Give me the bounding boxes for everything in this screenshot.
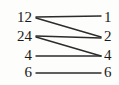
right-node-0: 1: [104, 10, 112, 25]
edge-12-to-1: [36, 16, 101, 17]
left-node-0: 12: [17, 10, 32, 25]
right-node-3: 6: [104, 65, 112, 80]
edges-group: [36, 16, 101, 73]
left-node-1: 24: [17, 29, 32, 44]
right-node-1: 2: [104, 29, 112, 44]
mapping-diagram: 12 24 4 6 1 2 4 6: [0, 0, 119, 85]
edge-24-to-2: [36, 36, 101, 38]
left-node-2: 4: [25, 48, 33, 63]
right-node-2: 4: [104, 48, 112, 63]
edge-12-to-2: [36, 18, 101, 37]
edge-24-to-4: [36, 37, 101, 56]
left-node-3: 6: [25, 65, 33, 80]
